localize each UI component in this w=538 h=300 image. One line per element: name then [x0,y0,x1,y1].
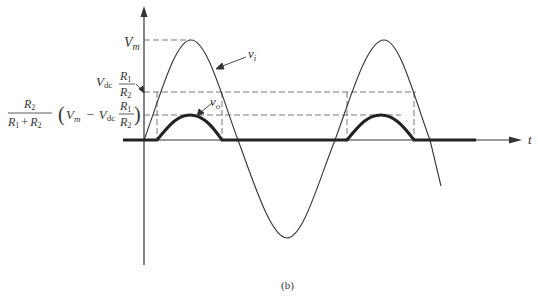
vi-pointer-arrow-icon [216,63,224,69]
vdc-ratio-label: Vdc R1 R2 [96,69,135,100]
output-peak-label: R2 R1+R2 ( Vm−Vdc R1 R2 ) [7,97,141,130]
pointer-arrows [136,57,246,116]
svg-text:Vdc: Vdc [96,74,112,90]
svg-text:Vm−Vdc: Vm−Vdc [66,107,115,124]
t-axis-arrow-icon [509,137,522,144]
svg-text:R2: R2 [23,97,35,112]
vm-label: Vm [124,35,140,52]
vo-label: vo [210,94,221,111]
dashed-guides [144,40,416,140]
svg-text:R2: R2 [119,85,131,100]
clipper-waveform-figure: Vm vi vo Vdc R1 R2 R2 R1+R2 ( Vm−Vdc R1 … [0,0,538,300]
waveform-diagram: Vm vi vo Vdc R1 R2 R2 R1+R2 ( Vm−Vdc R1 … [0,0,538,300]
svg-text:R1: R1 [119,99,131,114]
vdc-pointer-arrow-icon [139,86,144,93]
svg-text:R2: R2 [119,115,131,130]
svg-text:): ) [134,103,141,126]
svg-text:R1+R2: R1+R2 [7,115,41,130]
vi-label: vi [248,46,257,63]
figure-caption: (b) [281,279,294,292]
y-axis-arrow-icon [141,6,148,17]
svg-text:(: ( [58,103,65,126]
t-axis-label: t [528,132,532,147]
svg-text:R1: R1 [119,69,131,84]
